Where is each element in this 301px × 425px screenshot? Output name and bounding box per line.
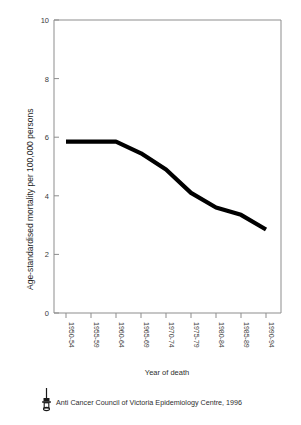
x-tick-label-1975-79: 1975-79 bbox=[193, 322, 200, 348]
y-axis-title: Age-standardised mortality per 100,000 p… bbox=[25, 109, 35, 290]
y-tick-label-2: 2 bbox=[45, 250, 49, 259]
x-tick-label-1980-84: 1980-84 bbox=[218, 322, 225, 348]
x-tick-label-1955-59: 1955-59 bbox=[93, 322, 100, 348]
chart-background bbox=[0, 0, 301, 425]
y-tick-label-10: 10 bbox=[41, 16, 49, 25]
x-tick-label-1965-69: 1965-69 bbox=[143, 322, 150, 348]
x-tick-label-1950-54: 1950-54 bbox=[68, 322, 75, 348]
x-tick-label-1985-89: 1985-89 bbox=[243, 322, 250, 348]
chart-figure: Age-standardised mortality per 100,000 p… bbox=[0, 0, 301, 425]
x-tick-label-1970-74: 1970-74 bbox=[168, 322, 175, 348]
y-tick-label-6: 6 bbox=[45, 133, 49, 142]
y-tick-label-0: 0 bbox=[45, 309, 49, 318]
y-tick-label-4: 4 bbox=[45, 192, 49, 201]
x-axis-title: Year of death bbox=[145, 368, 189, 377]
footer-credit: Anti Cancer Council of Victoria Epidemio… bbox=[56, 398, 242, 407]
x-tick-label-1960-64: 1960-64 bbox=[118, 322, 125, 348]
y-tick-label-8: 8 bbox=[45, 75, 49, 84]
mortality-line-chart: Age-standardised mortality per 100,000 p… bbox=[0, 0, 301, 425]
x-tick-label-1990-94: 1990-94 bbox=[268, 322, 275, 348]
